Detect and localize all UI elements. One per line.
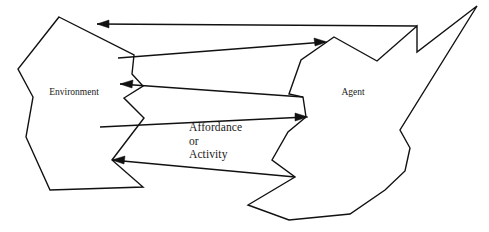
flow-line-agent-to-environment-top — [97, 24, 417, 26]
flow-line-agent-to-environment-bottom — [112, 160, 295, 177]
diagram-canvas: Environment Agent Affordance or Activity — [0, 0, 489, 232]
agent-shape[interactable] — [248, 6, 477, 220]
environment-label: Environment — [49, 87, 99, 97]
affordance-or-activity-caption: Affordance or Activity — [189, 121, 242, 162]
agent-label: Agent — [341, 87, 365, 97]
diagram-vector-layer: Environment Agent — [0, 0, 489, 232]
flow-line-environment-to-agent-upper — [118, 42, 325, 58]
environment-shape[interactable] — [18, 17, 144, 190]
arrowhead-left-top — [97, 20, 109, 28]
flow-line-agent-to-environment-upper-mid — [120, 84, 303, 97]
